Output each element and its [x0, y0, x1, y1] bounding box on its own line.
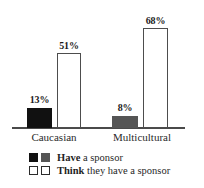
bar-group-multicultural: 8% 68% [112, 3, 168, 128]
plot-area: 13% 51% 8% 68% [0, 0, 204, 130]
bar-value-multicultural-think: 68% [146, 15, 165, 26]
x-tick-label-multicultural: Multicultural [100, 131, 184, 143]
bar-caucasian-have[interactable]: 13% [27, 108, 52, 127]
x-tick-label-caucasian: Caucasian [18, 131, 90, 143]
legend-label-have-rest: a sponsor [80, 152, 123, 163]
bar-group-caucasian: 13% 51% [27, 3, 81, 128]
bar-value-caucasian-think: 51% [59, 40, 78, 51]
bar-caucasian-think[interactable]: 51% [57, 53, 81, 128]
legend-label-have: Have a sponsor [57, 152, 123, 163]
bar-value-caucasian-have: 13% [30, 94, 49, 105]
legend-swatch-hollow-one-icon [29, 166, 38, 175]
chart-legend: Have a sponsor Think they have a sponsor [0, 151, 204, 177]
bar-multicultural-have[interactable]: 8% [112, 116, 138, 128]
legend-label-have-bold: Have [57, 152, 80, 163]
legend-row-think[interactable]: Think they have a sponsor [0, 164, 204, 177]
bar-value-multicultural-have: 8% [118, 102, 133, 113]
legend-label-think-bold: Think [57, 165, 84, 176]
legend-swatch-black-icon [29, 153, 38, 162]
bar-multicultural-think[interactable]: 68% [143, 28, 168, 128]
legend-label-think-rest: they have a sponsor [84, 165, 170, 176]
legend-label-think: Think they have a sponsor [57, 165, 170, 176]
x-axis-tick-labels: Caucasian Multicultural [0, 131, 204, 147]
bar-chart-sponsorship: 13% 51% 8% 68% Caucasian Multicultural H… [0, 0, 204, 188]
legend-swatch-hollow-two-icon [41, 166, 50, 175]
legend-swatch-gray-icon [41, 153, 50, 162]
legend-row-have[interactable]: Have a sponsor [0, 151, 204, 164]
